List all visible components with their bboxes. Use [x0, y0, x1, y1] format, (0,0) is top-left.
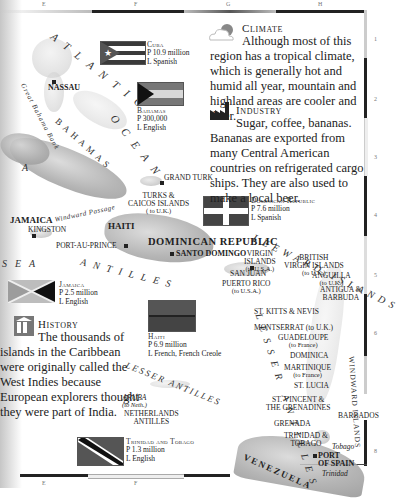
- label-trinidad-tobago: TRINIDAD & TOBAGO: [284, 432, 328, 448]
- label-note: ( to U.K.): [128, 208, 189, 215]
- flag-trinidad-tobago: [77, 437, 124, 466]
- grid-bar: [364, 294, 367, 356]
- grid-row-label: 1: [374, 36, 377, 42]
- grid-bar: [364, 356, 367, 394]
- grid-bar: [88, 474, 184, 479]
- flag-jamaica: [8, 280, 55, 303]
- grid-col-label: F: [134, 1, 137, 7]
- label-windward-islands: WINDWARD ISLANDS: [347, 356, 362, 448]
- grid-col-label: E: [42, 480, 46, 486]
- flag-bahamas: [137, 82, 184, 106]
- grid-bar: [276, 10, 366, 13]
- grid-col-label: E: [42, 1, 46, 7]
- label-text: THE GRENADINES: [266, 404, 330, 412]
- grid-row-label: 8: [374, 448, 377, 454]
- fact-haiti: Haiti P 6.9 million L French, French Cre…: [148, 333, 221, 358]
- label-port-of-spain: PORT OF SPAIN: [318, 452, 354, 469]
- topic-industry-text: Sugar, coffee, bananas. Bananas are expo…: [210, 116, 365, 206]
- label-grand-turk: GRAND TURK: [164, 174, 213, 182]
- fact-language: L French, French Creole: [148, 350, 221, 358]
- grid-row-label: 4: [374, 212, 377, 218]
- grid-col-label: F: [134, 480, 137, 486]
- label-grenada: GRENADA: [274, 420, 311, 428]
- fact-language: L English: [126, 455, 194, 463]
- flag-haiti: [148, 300, 196, 332]
- grid-row-label: 2: [374, 96, 377, 102]
- topic-history-text: The thousands of islands in the Caribbea…: [0, 330, 140, 420]
- fact-language: L English: [137, 124, 167, 132]
- label-kingston: KINGSTON: [28, 226, 66, 234]
- fact-language: L Spanish: [251, 214, 315, 222]
- label-puerto-rico: PUERTO RICO (to U.S.A.): [222, 280, 270, 295]
- label-text: OF SPAIN: [318, 460, 354, 468]
- label-trinidad: Trinidad: [322, 470, 348, 478]
- grid-row-label: 6: [374, 330, 377, 336]
- label-dominica: DOMINICA: [290, 352, 328, 360]
- grid-row-label: 3: [374, 154, 377, 160]
- label-note: (to France): [284, 372, 331, 379]
- label-grand-turk-text: GRAND TURK: [164, 173, 213, 182]
- fact-trinidad-tobago: Trinidad and Tobago P 1.3 million L Engl…: [126, 438, 194, 463]
- label-tobago: Tobago: [332, 443, 354, 451]
- capital-marker-port-of-spain: [313, 454, 317, 458]
- fact-language: L English: [59, 298, 98, 306]
- label-note: (to U.S.A.): [244, 266, 276, 273]
- grid-row-label: 5: [374, 272, 377, 278]
- label-text: TOBAGO: [284, 440, 328, 448]
- grid-col-label: H: [318, 1, 322, 7]
- label-montserrat: MONTSERRAT (to U.K.): [254, 324, 333, 332]
- grid-bar: [184, 474, 230, 477]
- label-st-vincent-grenadines: ST. VINCENT & THE GRENADINES: [266, 396, 330, 412]
- label-santo-domingo: SANTO DOMINGO: [176, 250, 246, 258]
- flag-cuba-triangle: ★: [101, 42, 145, 64]
- flag-cuba: ★: [100, 41, 146, 65]
- label-antigua-barbuda: ANTIGUA & BARBUDA: [320, 286, 361, 302]
- label-haiti: HAITI: [108, 222, 135, 231]
- label-nassau: NASSAU: [48, 84, 80, 92]
- grid-bar: [20, 474, 88, 477]
- fact-bahamas: Bahamas P 300,000 L English: [137, 107, 167, 132]
- star-icon: ★: [104, 48, 112, 58]
- label-barbados: BARBADOS: [338, 412, 379, 420]
- label-st-kitts-nevis: ST. KITTS & NEVIS: [254, 308, 319, 316]
- label-note: (to U.S.A.): [222, 288, 270, 295]
- label-guadeloupe: GUADELOUPE (to France): [278, 334, 328, 349]
- label-text: BARBUDA: [320, 294, 361, 302]
- label-martinique: MARTINIQUE (to France): [284, 364, 331, 379]
- label-port-au-prince: PORT-AU-PRINCE: [56, 242, 117, 250]
- grid-bar: [184, 10, 276, 13]
- grid-bar: [364, 420, 367, 466]
- fact-cuba: Cuba P 10.9 million L Spanish: [147, 41, 189, 66]
- label-sea: SEA: [2, 258, 43, 269]
- grid-bar: [92, 10, 184, 13]
- grid-col-label: G: [226, 1, 230, 7]
- fact-language: L Spanish: [147, 58, 189, 66]
- fact-jamaica: Jamaica P 2.5 million L English: [59, 281, 98, 306]
- capital-marker-kingston: [32, 234, 36, 238]
- label-dominican-republic: DOMINICAN REPUBLIC: [148, 236, 278, 247]
- label-note: (to France): [278, 342, 328, 349]
- capital-marker-santo-domingo: [170, 252, 174, 256]
- capital-marker-port-au-prince: [124, 244, 128, 248]
- label-greater-antilles-a: A: [22, 162, 34, 173]
- label-virgin-islands: VIRGIN ISLANDS (to U.S.A.): [244, 250, 276, 273]
- label-st-lucia: ST. LUCIA: [294, 382, 329, 390]
- label-turks-caicos: TURKS & CAICOS ISLANDS ( to U.K.): [128, 192, 189, 215]
